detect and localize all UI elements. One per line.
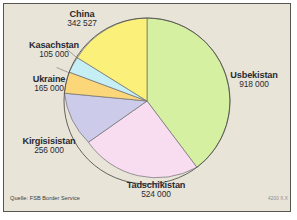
slice-label-usbekistan-value: 918 000: [221, 80, 287, 89]
slice-label-ukraine-value: 165 000: [18, 84, 80, 93]
slice-label-kirgisisistan: Kirgisisistan 256 000: [6, 137, 92, 155]
slice-label-tadschikistan-value: 524 000: [111, 190, 201, 199]
slice-label-china-value: 342 527: [55, 19, 109, 28]
reference-code: 4200 fl.X: [268, 196, 288, 201]
slice-label-china: China 342 527: [55, 10, 109, 28]
slice-label-ukraine: Ukraine 165 000: [18, 75, 80, 93]
slice-label-tadschikistan: Tadschikistan 524 000: [111, 181, 201, 199]
slice-label-usbekistan: Usbekistan 918 000: [221, 71, 287, 89]
slice-label-kasachstan-value: 105 000: [14, 50, 94, 59]
slice-label-kirgisisistan-value: 256 000: [6, 146, 92, 155]
source-note: Quelle: FSB Border Service: [10, 195, 80, 201]
chart-screenshot: China 342 527 Kasachstan 105 000 Ukraine…: [0, 0, 297, 220]
slice-label-kasachstan: Kasachstan 105 000: [14, 41, 94, 59]
